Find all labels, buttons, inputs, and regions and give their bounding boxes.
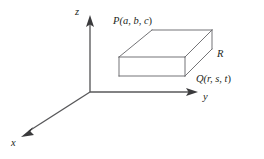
region-label-r: R (217, 49, 223, 60)
box-group (119, 30, 212, 76)
vertex-label-q: Q(r, s, t) (196, 74, 231, 85)
y-axis-label: y (203, 92, 208, 103)
x-axis (21, 92, 90, 137)
vertex-label-q-prefix: Q( (196, 73, 207, 84)
vertex-label-p-vars: a, b, c (123, 15, 149, 26)
z-axis (86, 15, 94, 92)
vertex-label-p: P(a, b, c) (113, 16, 152, 27)
figure-canvas: z y x P(a, b, c) R Q(r, s, t) (0, 0, 264, 159)
vertex-label-p-suffix: ) (149, 15, 153, 26)
region-label-r-text: R (217, 48, 223, 59)
z-axis-label: z (75, 7, 79, 18)
vertex-label-q-suffix: ) (228, 73, 232, 84)
vertex-label-q-vars: r, s, t (207, 73, 227, 84)
x-axis-label: x (11, 138, 16, 149)
box-front-face (119, 57, 185, 76)
vertex-label-p-prefix: P( (113, 15, 123, 26)
y-axis (90, 88, 198, 96)
x-axis-arrowhead (21, 127, 34, 137)
x-axis-line (29, 92, 90, 131)
